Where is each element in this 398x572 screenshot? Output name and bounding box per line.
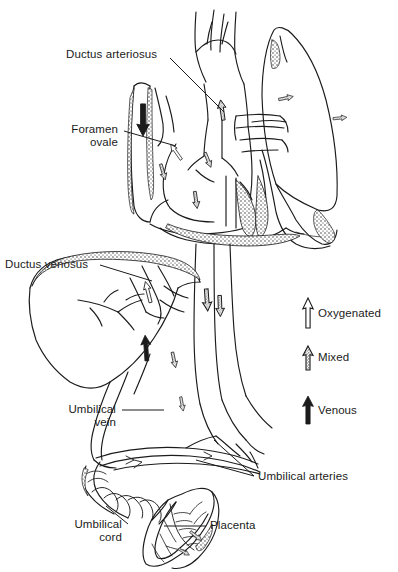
heart-apex-shading: [166, 224, 300, 246]
legend-venous-arrow: [303, 396, 314, 424]
umbilical-artery-flow-arrow: [169, 352, 179, 369]
legend-oxygenated-arrow: [303, 298, 313, 328]
legend-mixed-arrow: [303, 346, 313, 370]
legend-label-venous: Venous: [318, 404, 357, 417]
placenta: [143, 488, 219, 568]
umbilical-cord: [83, 462, 176, 524]
lung-base-shading: [314, 210, 335, 243]
label-placenta: Placenta: [210, 519, 256, 532]
label-ductus-arteriosus: Ductus arteriosus: [66, 48, 157, 61]
descending-aorta-flow-arrow: [202, 289, 213, 312]
pulmonary-flow-arrow-2: [333, 114, 347, 121]
ductus-venosus-flow-arrow: [142, 281, 154, 304]
fetal-circulation-figure: [0, 0, 398, 572]
legend-label-oxygenated: Oxygenated: [318, 307, 381, 320]
ivc-flow-arrow: [215, 295, 225, 316]
right-atrium-flow-arrow: [202, 151, 214, 168]
leader-ductus-venosus: [100, 265, 152, 281]
umbilical-vein-flow-arrow: [140, 335, 152, 361]
umbilical-arteries-vessels: [96, 436, 260, 474]
legend-symbols: [303, 298, 314, 424]
descending-aorta: [194, 244, 246, 404]
lv-outer-wall-shading: [256, 176, 268, 238]
label-umbilical-vein: Umbilical vein: [34, 403, 116, 429]
label-ductus-venosus: Ductus venosus: [5, 258, 88, 271]
leader-ductus-arteriosus: [170, 58, 224, 112]
left-ventricle-flow-arrow: [191, 191, 201, 209]
label-foramen-ovale: Foramen ovale: [44, 123, 118, 149]
label-umbilical-arteries: Umbilical arteries: [258, 470, 348, 483]
ductus-arteriosus-wall2-shading: [147, 88, 154, 200]
pulmonary-flow-arrow-1: [278, 93, 294, 102]
inferior-vena-cava: [200, 396, 272, 454]
liver: [29, 254, 200, 389]
lung-hilum-shading: [271, 40, 281, 69]
flow-arrows: [137, 93, 347, 557]
umbilical-artery-flow-arrow-2: [178, 396, 186, 411]
label-umbilical-cord: Umbilical cord: [42, 518, 122, 544]
heart: [150, 115, 304, 245]
legend-label-mixed: Mixed: [318, 351, 349, 364]
